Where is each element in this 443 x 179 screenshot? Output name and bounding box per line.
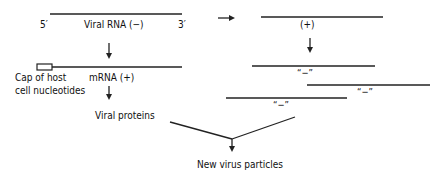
cap-label-line2: cell nucleotides	[15, 85, 85, 96]
minus-strand-2-label: “−”	[357, 86, 373, 97]
plus-strand-label: (+)	[300, 19, 315, 30]
new-virus-particles-label: New virus particles	[197, 159, 283, 170]
viral-proteins-label: Viral proteins	[95, 110, 155, 121]
arrow-down-icon	[106, 43, 112, 59]
viral-rna-label: Viral RNA (−)	[84, 19, 144, 30]
converge-line-right	[232, 117, 295, 139]
converge-line-left	[170, 122, 232, 139]
arrow-down-icon	[229, 139, 235, 152]
cap-label-line1: Cap of host	[15, 72, 66, 83]
arrow-down-icon	[307, 38, 313, 53]
cap-box	[37, 64, 52, 70]
three-prime-label: 3′	[178, 19, 186, 30]
mrna-label: mRNA (+)	[89, 72, 134, 83]
arrow-right-icon	[218, 15, 235, 21]
minus-strand-1-label: “−”	[297, 67, 313, 78]
arrow-down-icon	[106, 86, 112, 100]
five-prime-label: 5′	[40, 19, 48, 30]
minus-strand-3-label: “−”	[273, 99, 289, 110]
